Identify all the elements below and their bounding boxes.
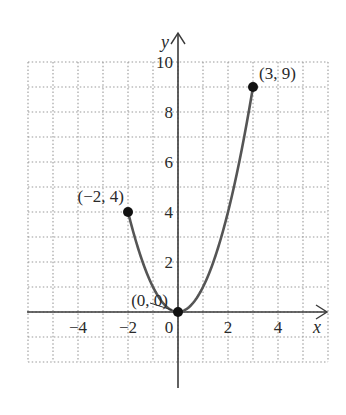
y-tick-label: 2 — [165, 253, 174, 272]
x-tick-label: 2 — [224, 318, 233, 337]
y-tick-label: 8 — [165, 103, 174, 122]
x-tick-label: −4 — [69, 318, 88, 337]
data-point-marker — [173, 307, 183, 317]
point-label: (3, 9) — [259, 64, 296, 83]
x-tick-label: −2 — [119, 318, 137, 337]
data-point-marker — [248, 82, 258, 92]
y-tick-label: 6 — [165, 153, 174, 172]
data-point-marker — [123, 207, 133, 217]
x-tick-label: 0 — [165, 318, 174, 337]
parabola-curve — [128, 87, 253, 312]
x-tick-label: 4 — [274, 318, 283, 337]
y-tick-label: 4 — [165, 203, 174, 222]
y-axis-label: y — [159, 32, 169, 52]
x-axis-label: x — [312, 317, 321, 337]
parabola-graph: −4−2024246810 x y (−2, 4)(0, 0)(3, 9) — [0, 0, 346, 415]
y-tick-label: 10 — [156, 53, 173, 72]
labeled-points: (−2, 4)(0, 0)(3, 9) — [78, 64, 296, 317]
point-label: (0, 0) — [131, 291, 168, 310]
point-label: (−2, 4) — [78, 187, 124, 206]
